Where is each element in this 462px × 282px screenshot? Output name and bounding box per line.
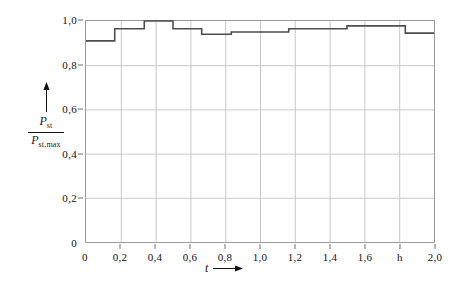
x-axis-tick-mark	[155, 244, 156, 249]
x-axis-tick-label: 0,2	[113, 251, 128, 263]
x-axis-tick-label: 0,6	[183, 251, 198, 263]
y-axis-tick-label: 0,2	[62, 192, 77, 204]
step-series	[86, 21, 434, 242]
x-axis-tick-label: 1,2	[288, 251, 303, 263]
x-axis-tick-label: 1,6	[358, 251, 373, 263]
step-line	[86, 21, 434, 41]
x-axis-title: t	[205, 261, 243, 276]
y-axis-tick-label: 0,4	[62, 148, 77, 160]
y-axis-tick-label: 0,8	[62, 59, 77, 71]
x-axis-tick-mark	[365, 244, 366, 249]
x-axis-unit-label: h	[397, 251, 403, 263]
x-axis-tick-mark	[225, 244, 226, 249]
y-axis-tick-label: 0	[71, 237, 77, 249]
y-axis-tick-mark	[78, 198, 83, 199]
x-axis: 00,20,40,60,81,01,21,41,6h2,0	[85, 244, 435, 266]
x-axis-title-label: t	[205, 261, 208, 276]
y-axis-tick-mark	[78, 20, 83, 21]
y-axis-tick-mark	[78, 64, 83, 65]
x-axis-tick-mark	[295, 244, 296, 249]
x-axis-tick-label: 1,0	[253, 251, 268, 263]
x-axis-tick-mark	[260, 244, 261, 249]
x-axis-tick-mark	[190, 244, 191, 249]
plot-area	[85, 20, 435, 243]
y-axis-tick-mark	[78, 109, 83, 110]
y-axis: 00,20,40,60,81,0	[0, 20, 83, 243]
y-axis-tick-label: 1,0	[62, 14, 77, 26]
x-axis-tick-label: 0	[82, 251, 88, 263]
x-axis-tick-label: 2,0	[428, 251, 443, 263]
x-axis-arrow-icon	[213, 264, 243, 273]
chart-figure: Pst Pst,max 00,20,40,60,81,0 00,20,40,60…	[0, 0, 462, 282]
x-axis-tick-label: 0,4	[148, 251, 163, 263]
x-axis-tick-mark	[330, 244, 331, 249]
x-axis-tick-mark	[400, 244, 401, 249]
x-axis-tick-mark	[435, 244, 436, 249]
y-axis-tick-label: 0,6	[62, 103, 77, 115]
x-axis-tick-label: 1,4	[323, 251, 338, 263]
x-axis-tick-mark	[120, 244, 121, 249]
y-axis-tick-mark	[78, 153, 83, 154]
